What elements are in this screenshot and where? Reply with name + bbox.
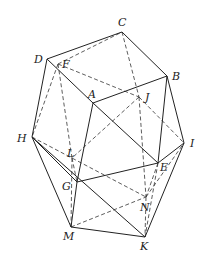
vertex-label-J: J [143,91,150,104]
visible-edges [32,32,184,237]
edge-BI [167,76,184,143]
vertex-label-K: K [139,240,149,253]
edge-LM [71,158,72,227]
edge-EN [146,163,158,197]
vertex-label-A: A [87,88,96,101]
edge-MN [71,197,146,227]
vertex-label-B: B [171,70,180,83]
vertex-label-G: G [62,180,71,193]
edge-DC [47,32,122,59]
edge-MK [71,227,145,237]
edge-JL [72,97,139,158]
edge-BE [158,76,167,163]
edge-DH [32,59,47,137]
edge-GM [71,182,77,227]
edge-FH [32,64,58,137]
vertex-labels: ABCDEFGHIJKLMN [16,16,195,253]
vertex-label-E: E [159,161,168,174]
vertex-label-H: H [16,132,27,145]
vertex-label-I: I [189,137,195,150]
vertex-label-D: D [33,53,43,66]
edge-HK [32,137,145,237]
vertex-label-L: L [66,147,74,160]
edge-GE [77,163,158,182]
edge-FL [58,64,72,158]
edge-CB [122,32,167,76]
polyhedron-figure: ABCDEFGHIJKLMN [0,0,210,270]
edge-AG [77,103,93,182]
edge-DA [47,59,93,103]
edge-AE [93,103,158,163]
edge-EK [145,163,158,237]
vertex-label-M: M [62,230,75,243]
vertex-label-F: F [61,58,70,71]
edge-AB [93,76,167,103]
vertex-label-N: N [139,201,150,214]
vertex-label-C: C [118,16,127,29]
